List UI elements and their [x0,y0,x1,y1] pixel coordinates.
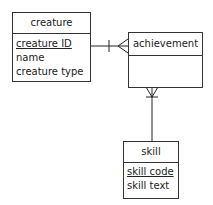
attribute-primary-key: creature ID [16,37,90,51]
entity-creature: creature creature ID name creature type [12,12,91,82]
entity-skill: skill skill code skill text [123,141,179,199]
entity-achievement: achievement [128,32,203,88]
crows-foot-icon [118,39,128,46]
attribute: name [16,51,90,65]
entity-title: achievement [129,33,202,56]
entity-title: creature [13,13,90,34]
attribute-primary-key: skill code [127,165,178,179]
attribute: creature type [16,65,90,79]
crows-foot-icon [146,87,152,97]
entity-title: skill [124,142,178,163]
attribute: skill text [127,179,178,193]
